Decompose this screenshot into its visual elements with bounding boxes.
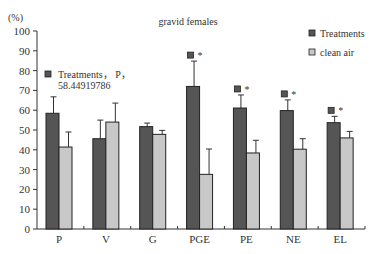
bar-clean-air-pge [200,174,213,229]
x-tick-label: P [56,233,62,245]
y-axis-label: (%) [8,12,23,24]
x-tick-label: NE [286,233,301,245]
significance-asterisk: * [338,105,343,116]
legend-label: clean air [320,47,355,58]
x-tick-label: PGE [189,233,210,245]
significance-marker-icon [281,91,287,97]
bar-clean-air-pe [246,153,259,229]
x-tick-label: EL [333,233,347,245]
significance-marker-icon [188,52,194,58]
legend-label: Treatments [320,28,365,39]
bar-treatments-v [93,139,106,229]
chart-title: gravid females [158,16,217,27]
bar-treatments-el [327,123,340,229]
annotation-swatch-icon [45,71,51,77]
y-tick-label: 0 [25,223,31,235]
significance-asterisk: * [198,50,203,61]
bar-clean-air-el [340,138,353,229]
bar-clean-air-v [106,122,119,229]
y-tick-label: 80 [19,65,31,77]
significance-asterisk: * [291,89,296,100]
significance-marker-icon [234,86,240,92]
bar-treatments-p [46,113,59,229]
bar-treatments-g [140,127,153,229]
y-tick-label: 10 [19,203,31,215]
y-tick-label: 30 [19,164,31,176]
y-tick-label: 20 [19,183,31,195]
bar-treatments-pge [187,86,200,229]
y-tick-label: 50 [19,124,31,136]
bar-clean-air-g [153,134,166,229]
annotation-line2: 58.44919786 [58,80,111,91]
bar-treatments-pe [233,108,246,229]
annotation-line1: Treatments， P， [58,69,131,80]
x-tick-label: G [149,233,157,245]
legend-swatch-icon [309,30,315,36]
y-tick-label: 70 [19,84,31,96]
y-tick-label: 90 [19,45,31,57]
bar-treatments-ne [280,111,293,229]
bar-clean-air-ne [293,149,306,229]
bar-chart: 0102030405060708090100(%)PVGPGE*PE*NE*EL… [0,0,381,254]
significance-marker-icon [328,107,334,113]
bar-clean-air-p [59,147,72,229]
x-tick-label: PE [240,233,253,245]
y-tick-label: 60 [19,104,31,116]
y-tick-label: 40 [19,144,31,156]
x-tick-label: V [102,233,110,245]
significance-asterisk: * [244,84,249,95]
legend-swatch-icon [309,49,315,55]
y-tick-label: 100 [14,25,31,37]
